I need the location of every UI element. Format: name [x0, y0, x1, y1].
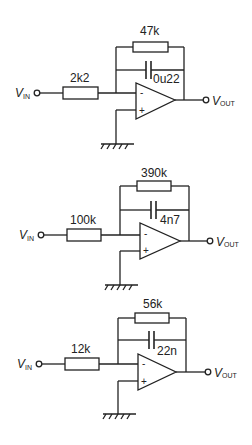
feedback-resistor-icon [133, 42, 168, 52]
input-resistor-label: 2k2 [70, 71, 90, 85]
ground-icon [105, 285, 138, 290]
feedback-resistor-icon [137, 181, 171, 191]
input-terminal-icon [36, 361, 42, 367]
feedback-capacitor-label: 4n7 [160, 213, 180, 227]
ground-icon [103, 414, 136, 419]
inverting-input-sign: - [140, 87, 143, 98]
feedback-resistor-label: 56k [143, 297, 163, 311]
input-terminal-icon [38, 232, 44, 238]
feedback-resistor-icon [135, 313, 169, 323]
feedback-resistor-label: 390k [141, 166, 168, 180]
input-terminal-icon [34, 90, 40, 96]
inverting-input-sign: - [144, 228, 147, 239]
circuit-1: V IN 2k2 47k 0u22 - + [15, 24, 236, 149]
vin-subscript: IN [25, 364, 32, 371]
input-resistor-icon [63, 87, 98, 99]
noninverting-input-sign: + [143, 245, 149, 256]
inverting-input-sign: - [142, 358, 145, 369]
input-resistor-icon [67, 229, 101, 241]
vout-subscript: OUT [222, 372, 238, 379]
noninverting-input-sign: + [139, 105, 145, 116]
feedback-resistor-label: 47k [140, 24, 160, 38]
circuit-2: V IN 100k 390k 4n7 - + V O [19, 166, 240, 290]
feedback-capacitor-label: 0u22 [153, 72, 180, 86]
output-terminal-icon [203, 97, 209, 103]
vout-subscript: OUT [224, 241, 240, 248]
circuit-diagram: V IN 2k2 47k 0u22 - + [0, 0, 252, 445]
input-resistor-label: 100k [70, 213, 97, 227]
vin-subscript: IN [23, 93, 30, 100]
vin-subscript: IN [27, 235, 34, 242]
vout-subscript: OUT [220, 100, 236, 107]
noninverting-input-sign: + [141, 376, 147, 387]
feedback-capacitor-label: 22n [157, 344, 177, 358]
input-resistor-icon [65, 358, 99, 370]
output-terminal-icon [205, 369, 211, 375]
ground-icon [101, 144, 134, 149]
output-terminal-icon [207, 238, 213, 244]
input-resistor-label: 12k [71, 342, 91, 356]
circuit-3: V IN 12k 56k 22n - + V OUT [17, 297, 238, 419]
